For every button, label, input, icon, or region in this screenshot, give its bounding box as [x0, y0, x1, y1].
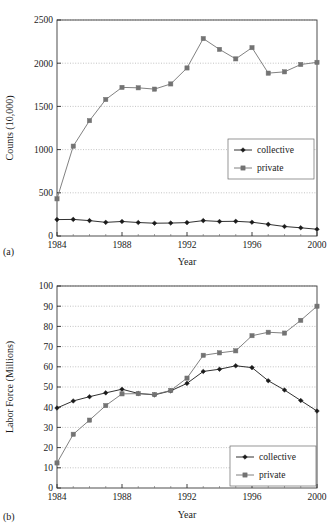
- legend-label-private: private: [259, 470, 285, 480]
- data-point-collective: [120, 219, 125, 224]
- legend-marker-private: [243, 473, 247, 477]
- x-axis: 19841988199219962000: [48, 484, 327, 502]
- data-point-collective: [152, 221, 157, 226]
- data-point-collective: [298, 398, 303, 403]
- data-point-collective: [71, 399, 76, 404]
- y-tick-label: 40: [44, 403, 54, 413]
- y-tick-label: 90: [44, 302, 54, 312]
- data-point-private: [315, 304, 319, 308]
- data-point-collective: [71, 217, 76, 222]
- x-tick-label: 1984: [48, 240, 67, 250]
- data-point-private: [120, 392, 124, 396]
- data-point-private: [71, 432, 75, 436]
- data-point-private: [282, 70, 286, 74]
- data-point-collective: [103, 220, 108, 225]
- x-tick-label: 1988: [113, 240, 132, 250]
- x-tick-label: 1988: [113, 492, 132, 502]
- data-point-private: [152, 87, 156, 91]
- x-tick-label: 1996: [243, 492, 262, 502]
- data-point-private: [315, 60, 319, 64]
- data-point-private: [136, 86, 140, 90]
- data-point-collective: [250, 220, 255, 225]
- data-point-collective: [136, 220, 141, 225]
- panel-a: 0500100015002000250019841988199219962000…: [0, 0, 336, 268]
- y-tick-label: 500: [39, 188, 54, 198]
- data-point-collective: [201, 218, 206, 223]
- data-point-private: [201, 353, 205, 357]
- data-point-collective: [233, 219, 238, 224]
- data-point-collective: [87, 218, 92, 223]
- x-tick-label: 2000: [308, 492, 327, 502]
- data-point-private: [104, 403, 108, 407]
- y-axis-title: Counts (10,000): [4, 96, 16, 161]
- data-point-private: [55, 461, 59, 465]
- data-point-private: [169, 82, 173, 86]
- data-point-private: [234, 57, 238, 61]
- data-point-private: [250, 46, 254, 50]
- data-point-private: [87, 119, 91, 123]
- data-point-collective: [315, 227, 320, 232]
- y-tick-label: 1500: [34, 102, 53, 112]
- x-tick-label: 1992: [178, 240, 197, 250]
- legend-marker-private: [241, 166, 245, 170]
- y-axis-title: Labor Force (Millions): [4, 341, 16, 433]
- data-point-private: [250, 334, 254, 338]
- x-axis: 19841988199219962000: [48, 232, 327, 250]
- data-point-collective: [315, 409, 320, 414]
- data-point-private: [136, 392, 140, 396]
- y-tick-label: 1000: [34, 145, 53, 155]
- x-axis-title: Year: [178, 509, 197, 520]
- y-tick-label: 20: [44, 443, 54, 453]
- data-point-private: [120, 85, 124, 89]
- series-collective: [55, 217, 320, 231]
- data-point-collective: [266, 222, 271, 227]
- y-tick-label: 70: [44, 342, 54, 352]
- data-point-private: [87, 418, 91, 422]
- series-line: [57, 366, 317, 411]
- y-tick-label: 2000: [34, 59, 53, 69]
- chart-a-canvas: 0500100015002000250019841988199219962000…: [0, 0, 336, 268]
- x-tick-label: 1996: [243, 240, 262, 250]
- data-point-collective: [55, 217, 60, 222]
- y-tick-label: 10: [44, 463, 54, 473]
- data-point-private: [217, 47, 221, 51]
- data-point-private: [266, 330, 270, 334]
- data-point-collective: [217, 367, 222, 372]
- legend-label-collective: collective: [259, 452, 296, 462]
- data-point-private: [234, 349, 238, 353]
- data-point-collective: [120, 387, 125, 392]
- data-point-collective: [185, 220, 190, 225]
- x-tick-label: 1984: [48, 492, 67, 502]
- data-point-collective: [87, 394, 92, 399]
- data-point-private: [299, 62, 303, 66]
- y-tick-label: 100: [39, 281, 54, 291]
- data-point-private: [55, 197, 59, 201]
- data-point-private: [299, 318, 303, 322]
- data-point-collective: [233, 363, 238, 368]
- legend-label-private: private: [257, 163, 283, 173]
- data-point-private: [185, 376, 189, 380]
- chart-b-canvas: 0102030405060708090100198419881992199620…: [0, 266, 336, 531]
- series-collective: [55, 363, 320, 413]
- data-point-private: [169, 388, 173, 392]
- y-tick-label: 2500: [34, 15, 53, 25]
- y-tick-label: 80: [44, 322, 54, 332]
- data-point-private: [185, 66, 189, 70]
- panel-b-tag: (b): [3, 511, 15, 522]
- data-point-collective: [282, 388, 287, 393]
- y-tick-label: 50: [44, 382, 54, 392]
- figure-two-panel-line-charts: 0500100015002000250019841988199219962000…: [0, 0, 336, 531]
- legend: collectiveprivate: [228, 139, 314, 179]
- data-point-collective: [55, 406, 60, 411]
- y-tick-label: 60: [44, 362, 54, 372]
- data-point-collective: [168, 221, 173, 226]
- data-point-private: [201, 36, 205, 40]
- plot-frame: [57, 20, 317, 236]
- data-point-collective: [217, 219, 222, 224]
- data-point-private: [217, 351, 221, 355]
- data-point-collective: [282, 224, 287, 229]
- y-tick-label: 30: [44, 423, 54, 433]
- data-point-collective: [103, 391, 108, 396]
- legend: collectiveprivate: [230, 446, 316, 486]
- panel-b: 0102030405060708090100198419881992199620…: [0, 266, 336, 531]
